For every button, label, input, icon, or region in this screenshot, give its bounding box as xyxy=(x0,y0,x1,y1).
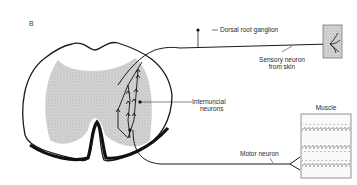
diagram-canvas xyxy=(0,0,357,185)
ganglion-dot xyxy=(196,28,199,31)
label-sensory-neuron-sub: from skin xyxy=(254,63,310,70)
muscle xyxy=(301,114,351,178)
label-sensory-neuron: Sensory neuron xyxy=(254,56,310,63)
label-muscle: Muscle xyxy=(301,104,351,111)
spinal-cord-section xyxy=(23,42,172,160)
skin-patch xyxy=(323,25,342,58)
label-dorsal-root-ganglion: Dorsal root ganglion xyxy=(220,26,278,33)
spinal-reflex-diagram: B Dorsal root ganglion Sensory neuron fr… xyxy=(0,0,357,185)
label-internuncial-sub: neurons xyxy=(200,105,224,112)
label-motor-neuron: Motor neuron xyxy=(240,150,279,157)
panel-label: B xyxy=(29,20,34,27)
label-internuncial: Internuncial xyxy=(192,98,226,105)
